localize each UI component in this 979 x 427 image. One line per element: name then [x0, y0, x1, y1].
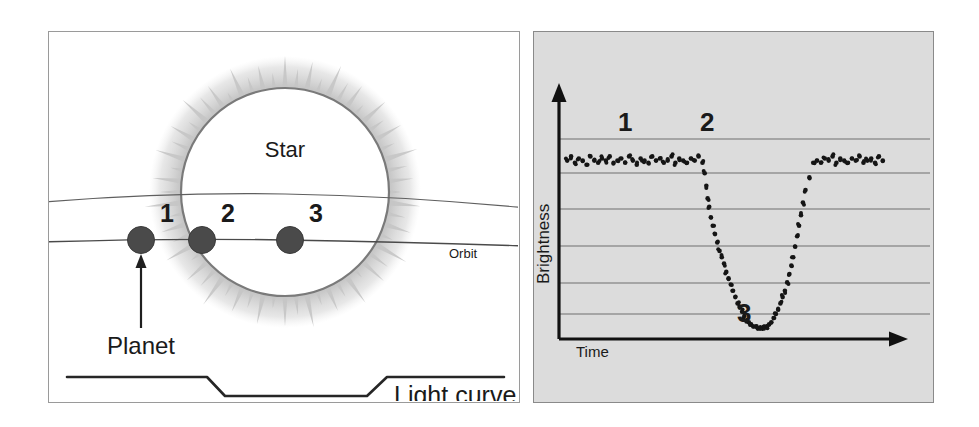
data-point	[802, 203, 806, 207]
planet-marker-3[interactable]	[277, 227, 304, 254]
data-point	[604, 161, 608, 165]
data-point	[822, 155, 826, 159]
y-axis-label: Brightness	[534, 204, 553, 284]
x-axis-label: Time	[576, 343, 609, 360]
data-point	[673, 163, 677, 167]
data-point	[588, 154, 592, 158]
position-label-3: 3	[309, 199, 323, 227]
planet-label: Planet	[107, 332, 175, 359]
data-point	[723, 264, 727, 268]
data-point	[649, 155, 653, 159]
data-point	[876, 156, 880, 160]
data-point	[564, 156, 568, 160]
data-point	[623, 160, 627, 164]
data-point	[787, 273, 791, 277]
data-point	[819, 160, 823, 164]
data-point	[730, 283, 734, 287]
data-point	[874, 162, 878, 166]
data-point	[642, 160, 646, 164]
data-point	[684, 161, 688, 165]
data-point	[576, 158, 580, 162]
data-point	[773, 311, 777, 315]
light-curve-label: Light curve	[394, 381, 516, 401]
transit-geometry-panel: 1 2 3 Star Orbit Planet Light curve	[48, 31, 520, 403]
data-point	[776, 307, 780, 311]
data-point	[716, 239, 720, 243]
data-point	[707, 198, 711, 202]
planet-pointer-arrow	[136, 254, 147, 328]
data-point	[618, 157, 622, 161]
light-curve-plot-panel: Brightness Time 1 2 3	[533, 31, 934, 403]
data-point	[704, 186, 708, 190]
data-point	[599, 154, 603, 158]
data-point	[855, 158, 859, 162]
data-point	[611, 162, 615, 166]
data-point	[713, 232, 717, 236]
star-body	[181, 88, 389, 296]
data-point	[869, 159, 873, 163]
data-point	[779, 300, 783, 304]
data-point	[730, 289, 734, 293]
data-point	[647, 162, 651, 166]
data-point	[661, 160, 665, 164]
data-point	[838, 158, 842, 162]
data-point	[864, 156, 868, 160]
orbit-label: Orbit	[449, 246, 478, 261]
data-point	[716, 247, 720, 251]
data-point	[790, 264, 794, 268]
data-point	[691, 158, 695, 162]
data-point	[654, 159, 658, 163]
transit-method-figure: 1 2 3 Star Orbit Planet Light curve	[0, 0, 979, 427]
chart-position-label-2: 2	[700, 107, 714, 137]
data-point	[574, 162, 578, 166]
data-point	[803, 190, 807, 194]
data-point	[569, 157, 573, 161]
data-point	[772, 316, 776, 320]
position-label-1: 1	[160, 199, 174, 227]
data-point	[586, 163, 590, 167]
data-point	[769, 321, 773, 325]
data-point	[857, 153, 861, 157]
planet-marker-2[interactable]	[189, 227, 216, 254]
position-label-2: 2	[221, 199, 235, 227]
data-point	[786, 282, 790, 286]
data-point	[796, 233, 800, 237]
data-point	[635, 161, 639, 165]
data-point	[696, 153, 700, 157]
data-point	[790, 255, 794, 259]
data-point	[826, 157, 830, 161]
data-point	[706, 206, 710, 210]
data-point	[581, 159, 585, 163]
light-curve-plot-svg: Brightness Time 1 2 3	[534, 32, 932, 401]
data-point	[702, 169, 706, 173]
data-point	[727, 277, 731, 281]
star-label: Star	[265, 137, 305, 162]
data-point	[671, 152, 675, 156]
data-point	[712, 224, 716, 228]
data-point	[630, 157, 634, 161]
data-point	[709, 216, 713, 220]
data-point	[799, 211, 803, 215]
data-point	[766, 324, 770, 328]
data-point	[606, 156, 610, 160]
data-point	[833, 163, 837, 167]
data-point	[723, 272, 727, 276]
data-point	[808, 177, 812, 181]
data-point	[793, 244, 797, 248]
data-point	[783, 291, 787, 295]
data-point	[850, 157, 854, 161]
data-point	[701, 159, 705, 163]
data-point	[881, 159, 885, 163]
planet-marker-1[interactable]	[128, 227, 155, 254]
data-point	[628, 153, 632, 157]
chart-position-label-3: 3	[737, 298, 751, 328]
data-point	[720, 253, 724, 257]
brightness-data-points	[564, 152, 885, 331]
data-point	[815, 159, 819, 163]
transit-geometry-svg: 1 2 3 Star Orbit Planet Light curve	[49, 32, 518, 401]
data-point	[796, 222, 800, 226]
data-point	[666, 157, 670, 161]
data-point	[845, 161, 849, 165]
x-axis	[559, 332, 908, 347]
chart-position-label-1: 1	[618, 107, 632, 137]
